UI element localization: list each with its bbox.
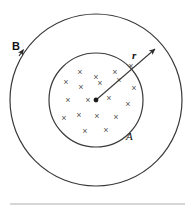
radius-arrow xyxy=(96,49,155,100)
area-label: A xyxy=(126,131,133,142)
field-mark: × xyxy=(113,112,118,122)
field-mark: × xyxy=(94,111,99,121)
field-mark: × xyxy=(76,110,81,120)
field-mark: × xyxy=(63,77,68,87)
center-dot xyxy=(94,98,99,103)
field-mark: × xyxy=(103,125,108,135)
field-mark: × xyxy=(77,67,82,77)
figure-container: ××××××××××××××××××× B r A xyxy=(0,0,195,214)
field-mark: × xyxy=(85,95,90,105)
field-mark: × xyxy=(106,93,111,103)
field-marks-group: ××××××××××××××××××× xyxy=(61,61,136,136)
field-mark: × xyxy=(78,82,83,92)
field-mark: × xyxy=(125,99,130,109)
magnetic-field-label: B xyxy=(12,41,20,52)
field-mark: × xyxy=(131,83,136,93)
field-mark: × xyxy=(82,126,87,136)
diagram-canvas: ××××××××××××××××××× xyxy=(0,0,195,214)
radius-label: r xyxy=(132,50,136,61)
field-mark: × xyxy=(61,113,66,123)
field-mark: × xyxy=(65,95,70,105)
field-mark: × xyxy=(97,78,102,88)
